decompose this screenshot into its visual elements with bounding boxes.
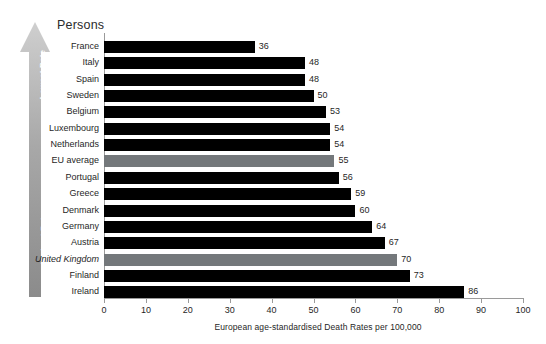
x-axis-tick bbox=[523, 298, 524, 303]
bar bbox=[104, 205, 355, 217]
bar-row: Belgium53 bbox=[104, 106, 326, 118]
x-axis-tick-label: 60 bbox=[350, 305, 360, 315]
bar-row: Luxembourg54 bbox=[104, 123, 330, 135]
bar-row: Italy48 bbox=[104, 57, 305, 69]
bar-row: Denmark60 bbox=[104, 205, 355, 217]
x-axis-tick bbox=[481, 298, 482, 303]
bar bbox=[104, 254, 397, 266]
bar-category-label: Belgium bbox=[66, 105, 99, 118]
bar bbox=[104, 237, 385, 249]
bar-value-label: 73 bbox=[414, 269, 424, 282]
bar-category-label: Greece bbox=[69, 187, 99, 200]
plot-area: France36Italy48Spain48Sweden50Belgium53L… bbox=[104, 36, 523, 298]
bar bbox=[104, 188, 351, 200]
bar-row: Ireland86 bbox=[104, 286, 464, 298]
x-axis-tick-label: 30 bbox=[225, 305, 235, 315]
bar-row: Sweden50 bbox=[104, 90, 314, 102]
bar-category-label: Germany bbox=[62, 220, 99, 233]
x-axis-tick bbox=[230, 298, 231, 303]
bar-value-label: 67 bbox=[389, 236, 399, 249]
bar-value-label: 86 bbox=[468, 285, 478, 298]
bar bbox=[104, 139, 330, 151]
bar-category-label: Spain bbox=[76, 73, 99, 86]
bar bbox=[104, 74, 305, 86]
bar-value-label: 55 bbox=[338, 154, 348, 167]
bar-row: Austria67 bbox=[104, 237, 385, 249]
bar bbox=[104, 286, 464, 298]
bar-category-label: Denmark bbox=[62, 204, 99, 217]
x-axis-tick-label: 90 bbox=[476, 305, 486, 315]
x-axis-tick bbox=[146, 298, 147, 303]
bar-category-label: EU average bbox=[51, 154, 99, 167]
x-axis-title-text: European age-standardised Death Rates pe… bbox=[214, 322, 421, 332]
bar-row: Greece59 bbox=[104, 188, 351, 200]
x-axis-tick bbox=[397, 298, 398, 303]
x-axis-tick bbox=[355, 298, 356, 303]
bar-row: Portugal56 bbox=[104, 172, 339, 184]
bar-value-label: 70 bbox=[401, 253, 411, 266]
bar bbox=[104, 155, 334, 167]
bar-category-label: Sweden bbox=[66, 89, 99, 102]
bar-value-label: 60 bbox=[359, 204, 369, 217]
bar-category-label: Italy bbox=[82, 56, 99, 69]
bar-row: France36 bbox=[104, 41, 255, 53]
bar-value-label: 53 bbox=[330, 105, 340, 118]
bar bbox=[104, 41, 255, 53]
bar bbox=[104, 221, 372, 233]
bar-category-label: Ireland bbox=[71, 285, 99, 298]
bar-value-label: 48 bbox=[309, 73, 319, 86]
x-axis-tick-label: 10 bbox=[141, 305, 151, 315]
bar-value-label: 64 bbox=[376, 220, 386, 233]
arrow-label-highest-rate: Highest Rate bbox=[18, 234, 52, 243]
bar-row: Finland73 bbox=[104, 270, 410, 282]
x-axis-tick-label: 70 bbox=[392, 305, 402, 315]
arrow-label-lowest-rate: Lowest Rate bbox=[18, 70, 52, 79]
x-axis-tick-label: 80 bbox=[434, 305, 444, 315]
bar bbox=[104, 57, 305, 69]
bar bbox=[104, 106, 326, 118]
bar-category-label: United Kingdom bbox=[35, 253, 99, 266]
bar-row: United Kingdom70 bbox=[104, 254, 397, 266]
bar-category-label: Finland bbox=[69, 269, 99, 282]
bar-category-label: France bbox=[71, 40, 99, 53]
x-axis-tick bbox=[314, 298, 315, 303]
bar-value-label: 54 bbox=[334, 122, 344, 135]
x-axis-tick bbox=[188, 298, 189, 303]
bar-value-label: 56 bbox=[343, 171, 353, 184]
x-axis-tick-label: 40 bbox=[267, 305, 277, 315]
bar-value-label: 36 bbox=[259, 40, 269, 53]
bar bbox=[104, 172, 339, 184]
bar bbox=[104, 123, 330, 135]
arrow-label-lowest-rate-text: Lowest Rate bbox=[38, 50, 47, 99]
bar-category-label: Portugal bbox=[65, 171, 99, 184]
bar-row: Netherlands54 bbox=[104, 139, 330, 151]
bar-category-label: Luxembourg bbox=[49, 122, 99, 135]
bar-category-label: Netherlands bbox=[50, 138, 99, 151]
bar-row: EU average55 bbox=[104, 155, 334, 167]
x-axis-tick-label: 0 bbox=[101, 305, 106, 315]
x-axis-tick bbox=[439, 298, 440, 303]
bar bbox=[104, 90, 314, 102]
bar-value-label: 59 bbox=[355, 187, 365, 200]
chart-title: Persons bbox=[57, 18, 104, 32]
bar-row: Germany64 bbox=[104, 221, 372, 233]
bar-row: Spain48 bbox=[104, 74, 305, 86]
bar-value-label: 50 bbox=[318, 89, 328, 102]
bar-category-label: Austria bbox=[71, 236, 99, 249]
x-axis-tick-label: 100 bbox=[515, 305, 530, 315]
x-axis-tick-label: 50 bbox=[308, 305, 318, 315]
x-axis-title: European age-standardised Death Rates pe… bbox=[0, 322, 546, 332]
bar-value-label: 48 bbox=[309, 56, 319, 69]
bar-chart: Lowest Rate Highest Rate Persons France3… bbox=[0, 0, 546, 344]
bar-value-label: 54 bbox=[334, 138, 344, 151]
x-axis-tick bbox=[272, 298, 273, 303]
x-axis-tick-label: 20 bbox=[183, 305, 193, 315]
x-axis-tick bbox=[104, 298, 105, 303]
bar bbox=[104, 270, 410, 282]
